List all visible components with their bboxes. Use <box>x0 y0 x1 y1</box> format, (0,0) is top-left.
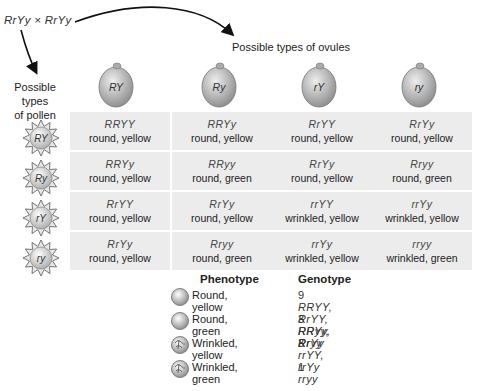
pollen-icon: Ry <box>22 159 60 197</box>
punnett-cell: RRYYround, yellow <box>70 112 170 150</box>
svg-text:RY: RY <box>34 133 49 144</box>
cell-genotype: rryy <box>372 237 472 251</box>
punnett-cell: RrYyround, yellow <box>70 232 170 270</box>
round-seed-icon <box>170 311 190 335</box>
punnett-cell: RrYYround, yellow <box>272 112 372 150</box>
cell-genotype: RRYy <box>172 117 272 131</box>
cell-genotype: Rryy <box>172 237 272 251</box>
pollen-Ry: Ry <box>22 159 60 197</box>
punnett-cell: RrYyround, yellow <box>372 112 472 150</box>
punnett-cell: rrYywrinkled, yellow <box>372 192 472 230</box>
cell-phenotype: round, yellow <box>272 131 372 145</box>
cell-phenotype: round, yellow <box>172 131 272 145</box>
ovule-icon: rY <box>299 58 339 108</box>
pollen-rY: rY <box>22 199 60 237</box>
cell-genotype: RrYy <box>172 197 272 211</box>
punnett-cell: rrYYwrinkled, yellow <box>272 192 372 230</box>
cell-phenotype: wrinkled, yellow <box>372 211 472 225</box>
punnett-cell: RrYyround, yellow <box>272 152 372 190</box>
cell-phenotype: round, yellow <box>70 211 170 225</box>
legend-phenotype: Wrinkled, green <box>192 361 238 385</box>
genotype-count: 3 <box>298 337 304 349</box>
ovule-icon: ry <box>399 58 439 108</box>
genotype-header: Genotype <box>298 273 351 285</box>
punnett-cell: RRYyround, yellow <box>70 152 170 190</box>
cell-genotype: Rryy <box>372 157 472 171</box>
svg-text:ry: ry <box>37 253 46 264</box>
legend-phenotype: Round, yellow <box>192 289 227 313</box>
pollen-title: Possible types of pollen <box>4 80 66 122</box>
punnett-cell: RrYYround, yellow <box>70 192 170 230</box>
punnett-cell: RRYyround, yellow <box>172 112 272 150</box>
ovule-ry: ry <box>399 58 439 108</box>
genotype-count: 9 <box>298 289 304 301</box>
cell-phenotype: round, yellow <box>70 171 170 185</box>
punnett-cell: RRyyround, green <box>172 152 272 190</box>
cell-phenotype: wrinkled, yellow <box>272 211 372 225</box>
genotype-list: rryy <box>298 373 318 385</box>
svg-text:ry: ry <box>415 81 424 93</box>
cell-genotype: RrYY <box>70 197 170 211</box>
ovule-Ry: Ry <box>199 58 239 108</box>
pollen-RY: RY <box>22 119 60 157</box>
punnett-cell: RrYyround, yellow <box>172 192 272 230</box>
svg-text:Ry: Ry <box>35 173 48 184</box>
cell-phenotype: round, yellow <box>372 131 472 145</box>
svg-text:rY: rY <box>314 81 325 93</box>
cell-phenotype: round, yellow <box>70 131 170 145</box>
cell-phenotype: round, green <box>372 171 472 185</box>
cell-genotype: RRYY <box>70 117 170 131</box>
cell-phenotype: wrinkled, yellow <box>272 251 372 265</box>
ovule-icon: RY <box>96 58 136 108</box>
cell-phenotype: wrinkled, green <box>372 251 472 265</box>
svg-text:Ry: Ry <box>213 81 227 93</box>
legend-phenotype: Round, green <box>192 313 227 337</box>
genotype-count: 3 <box>298 313 304 325</box>
round-seed-icon <box>170 287 190 311</box>
cell-phenotype: round, green <box>172 251 272 265</box>
parental-cross: RrYy × RrYy <box>4 14 72 26</box>
phenotype-header: Phenotype <box>200 273 259 285</box>
punnett-cell: rrYywrinkled, yellow <box>272 232 372 270</box>
cell-genotype: RrYy <box>272 157 372 171</box>
wrinkled-seed-icon <box>170 359 190 383</box>
cell-genotype: rrYy <box>372 197 472 211</box>
svg-text:RY: RY <box>109 81 124 93</box>
cell-genotype: RRYy <box>70 157 170 171</box>
cell-phenotype: round, yellow <box>272 171 372 185</box>
cell-genotype: rrYy <box>272 237 372 251</box>
cell-phenotype: round, yellow <box>70 251 170 265</box>
legend-phenotype: Wrinkled, yellow <box>192 337 238 361</box>
ovule-rY: rY <box>299 58 339 108</box>
cell-phenotype: round, yellow <box>172 211 272 225</box>
genotype-count: 1 <box>298 361 304 373</box>
ovule-RY: RY <box>96 58 136 108</box>
cell-genotype: RrYy <box>70 237 170 251</box>
cell-genotype: RrYY <box>272 117 372 131</box>
cell-genotype: RrYy <box>372 117 472 131</box>
punnett-cell: Rryyround, green <box>372 152 472 190</box>
legend-genotype: 1 rryy <box>298 361 318 385</box>
ovule-title: Possible types of ovules <box>232 41 350 53</box>
svg-text:rY: rY <box>36 213 47 224</box>
wrinkled-seed-icon <box>170 335 190 359</box>
cell-phenotype: round, green <box>172 171 272 185</box>
cell-genotype: RRyy <box>172 157 272 171</box>
pollen-ry: ry <box>22 239 60 277</box>
pollen-icon: rY <box>22 199 60 237</box>
ovule-icon: Ry <box>199 58 239 108</box>
cell-genotype: rrYY <box>272 197 372 211</box>
punnett-cell: Rryyround, green <box>172 232 272 270</box>
pollen-icon: ry <box>22 239 60 277</box>
punnett-cell: rryywrinkled, green <box>372 232 472 270</box>
pollen-icon: RY <box>22 119 60 157</box>
